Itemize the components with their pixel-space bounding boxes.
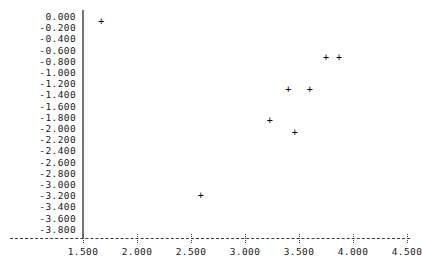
data-point-marker: + (285, 85, 291, 95)
data-point-marker: + (292, 128, 298, 138)
data-point-marker: + (98, 17, 104, 27)
data-point-marker: + (307, 85, 313, 95)
data-point-marker: + (336, 53, 342, 63)
data-point-marker: + (198, 191, 204, 201)
data-point-marker: + (267, 116, 273, 126)
data-point-marker: + (323, 53, 329, 63)
